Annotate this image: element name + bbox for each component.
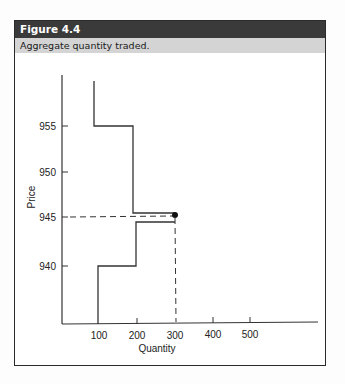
quantity-guide-dashed — [175, 218, 176, 322]
equilibrium-point — [172, 212, 178, 218]
x-tick-label: 500 — [242, 329, 259, 340]
y-tick-label: 945 — [39, 212, 56, 223]
x-tick-label: 400 — [205, 329, 222, 340]
y-tick-label: 950 — [39, 167, 56, 178]
price-guide-dashed — [70, 216, 174, 217]
y-axis-title: Price — [26, 185, 37, 208]
x-axis — [62, 322, 318, 324]
lower-step-curve — [98, 222, 175, 324]
upper-step-curve — [94, 81, 175, 213]
chart-plot: 955 950 945 940 100 200 300 400 500 Quan… — [0, 0, 345, 384]
x-tick-label: 200 — [129, 330, 146, 341]
y-tick-label: 940 — [39, 261, 56, 272]
x-tick-label: 300 — [167, 330, 184, 341]
x-axis-title: Quantity — [138, 343, 175, 354]
y-tick-label: 955 — [39, 121, 56, 132]
x-ticks: 100 200 300 400 500 — [91, 317, 259, 341]
x-tick-label: 100 — [91, 330, 108, 341]
y-ticks: 955 950 945 940 — [39, 121, 68, 272]
